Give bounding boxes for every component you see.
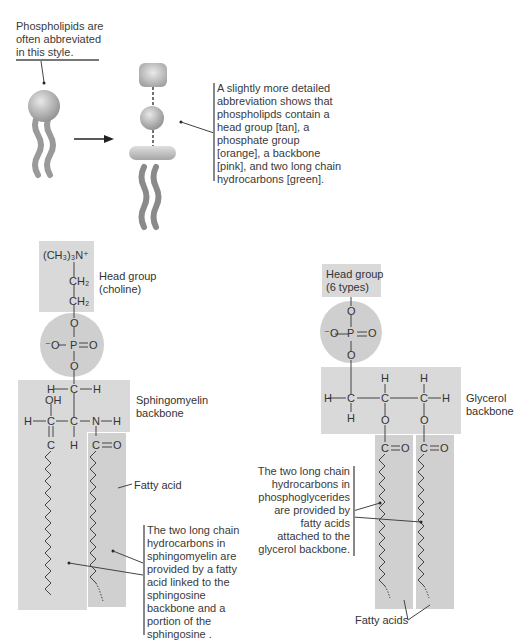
- caption-line: hydrocarbons in: [147, 537, 239, 550]
- atom-o: O: [70, 361, 79, 372]
- atom-c: C: [70, 416, 78, 427]
- atom-c: C: [420, 443, 428, 454]
- atom-oh: OH: [45, 395, 62, 406]
- label-line: Sphingomyelin: [136, 394, 208, 407]
- detailed-phospholipid-icon: [129, 63, 176, 227]
- caption-line: backbone and a: [147, 602, 239, 615]
- label-line: Head group: [99, 270, 157, 283]
- label-line: Glycerol: [466, 392, 514, 405]
- atom-ch2: CH₂: [69, 296, 89, 307]
- detail-caption: A slightly more detailed abbreviation sh…: [217, 82, 341, 186]
- atom-o: O: [347, 306, 356, 317]
- detail-caption-line: [pink], and two long chain: [217, 160, 341, 173]
- atom-c: C: [47, 440, 55, 451]
- label-line: backbone: [466, 405, 514, 418]
- detail-caption-line: A slightly more detailed: [217, 82, 341, 95]
- caption-line: glycerol backbone.: [250, 543, 350, 556]
- sphingomyelin-caption: The two long chain hydrocarbons in sphin…: [147, 524, 239, 641]
- caption-line: The two long chain: [250, 465, 350, 478]
- atom-n: N: [92, 416, 100, 427]
- caption-line: attached to the: [250, 530, 350, 543]
- detail-caption-line: [orange], a backbone: [217, 147, 341, 160]
- atom-h: H: [70, 440, 78, 451]
- atom-c: C: [381, 393, 389, 404]
- atom-h: H: [93, 384, 101, 395]
- detail-caption-bar: [213, 83, 215, 181]
- simple-phospholipid-icon: [28, 90, 60, 175]
- label-line: (6 types): [326, 281, 384, 294]
- detail-caption-line: abbreviation shows that: [217, 95, 341, 108]
- atom-o: O: [89, 340, 98, 351]
- atom-c: C: [47, 416, 55, 427]
- atom-h: H: [442, 393, 450, 404]
- atom-h: H: [324, 393, 332, 404]
- detail-caption-line: hydrocarbons [green].: [217, 173, 341, 186]
- caption-line: hydrocarbons in: [250, 478, 350, 491]
- atom-o-minus: ⁻O: [324, 328, 339, 339]
- head-group-choline-label: Head group (choline): [99, 270, 157, 296]
- detail-caption-line: phospholipds contain a: [217, 108, 341, 121]
- label-line: backbone: [136, 407, 208, 420]
- label-line: Head group: [326, 268, 384, 281]
- label-line: (choline): [99, 283, 157, 296]
- caption-line: portion of the: [147, 615, 239, 628]
- atom-choline-n: (CH₃)₃N⁺: [43, 250, 89, 261]
- glycerol-backbone-label: Glycerol backbone: [466, 392, 514, 418]
- sphingo-caption-bar: [143, 525, 145, 635]
- phosphoglyceride-caption: The two long chain hydrocarbons in phosp…: [250, 465, 350, 556]
- atom-c: C: [70, 384, 78, 395]
- atom-p: P: [347, 328, 354, 339]
- atom-o: O: [401, 443, 410, 454]
- intro-caption-line: in this style.: [16, 46, 103, 59]
- atom-p: P: [70, 340, 77, 351]
- atom-c: C: [92, 440, 100, 451]
- caption-line: acid linked to the: [147, 576, 239, 589]
- atom-h: H: [347, 413, 355, 424]
- atom-h: H: [24, 416, 32, 427]
- atom-h: H: [420, 373, 428, 384]
- caption-line: phosphoglycerides: [250, 491, 350, 504]
- atom-o: O: [440, 443, 449, 454]
- atom-o: O: [347, 350, 356, 361]
- atom-o-minus: ⁻O: [45, 340, 60, 351]
- phospho-caption-bar: [353, 466, 355, 556]
- atom-o: O: [381, 415, 390, 426]
- atom-ch2: CH₂: [69, 276, 89, 287]
- fatty-acids-label: Fatty acids: [355, 614, 408, 627]
- atom-o: O: [420, 415, 429, 426]
- head-group-6-types-label: Head group (6 types): [326, 268, 384, 294]
- atom-c: C: [420, 393, 428, 404]
- atom-o: O: [368, 328, 377, 339]
- intro-caption: Phospholipids are often abbreviated in t…: [16, 20, 103, 59]
- caption-line: are provided by: [250, 504, 350, 517]
- caption-line: sphingosine: [147, 589, 239, 602]
- caption-line: sphingosine .: [147, 628, 239, 641]
- detail-caption-line: phosphate group: [217, 134, 341, 147]
- caption-line: sphingomyelin are: [147, 550, 239, 563]
- caption-underline: [16, 59, 99, 61]
- caption-line: provided by a fatty: [147, 563, 239, 576]
- caption-line: fatty acids: [250, 517, 350, 530]
- atom-h: H: [381, 373, 389, 384]
- sphingomyelin-backbone-label: Sphingomyelin backbone: [136, 394, 208, 420]
- fatty-acid-label: Fatty acid: [134, 479, 182, 492]
- glycerol-box: [321, 367, 461, 434]
- atom-c: C: [381, 443, 389, 454]
- intro-caption-line: often abbreviated: [16, 33, 103, 46]
- intro-caption-line: Phospholipids are: [16, 20, 103, 33]
- detail-caption-line: head group [tan], a: [217, 121, 341, 134]
- caption-line: The two long chain: [147, 524, 239, 537]
- atom-o: O: [113, 440, 122, 451]
- atom-c: C: [347, 393, 355, 404]
- atom-h: H: [113, 416, 121, 427]
- atom-o: O: [70, 318, 79, 329]
